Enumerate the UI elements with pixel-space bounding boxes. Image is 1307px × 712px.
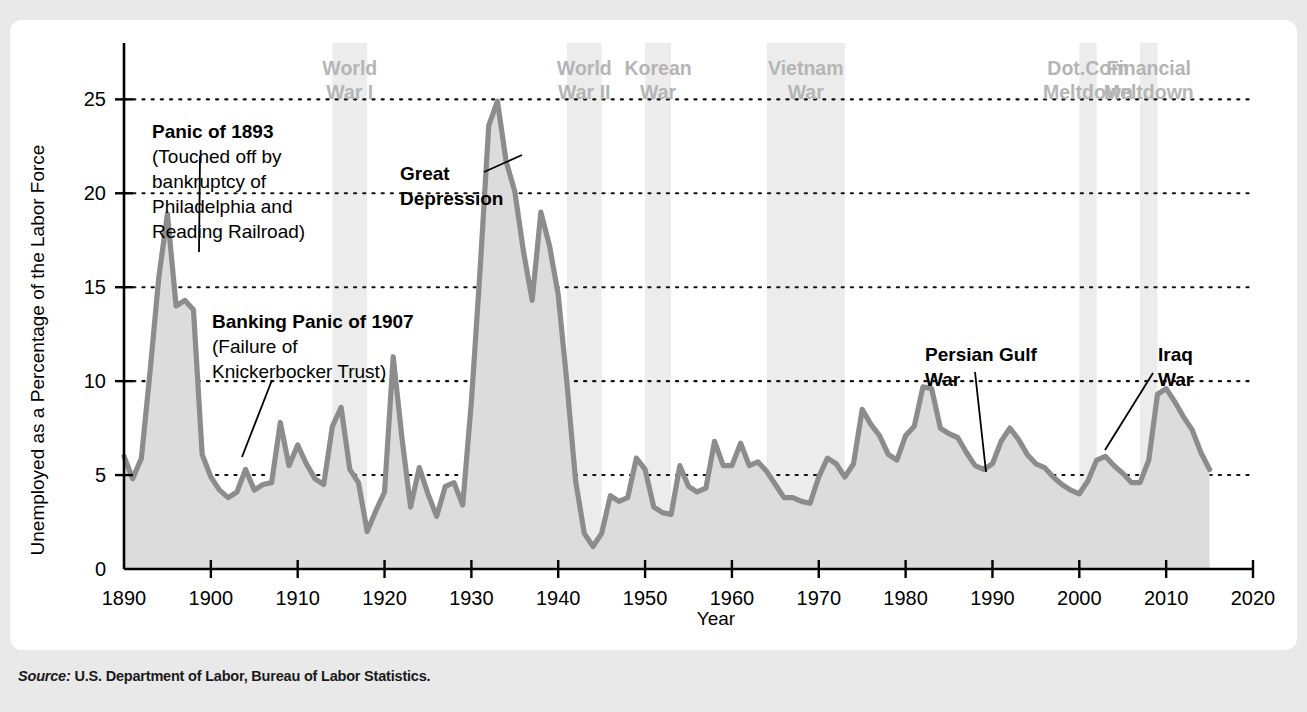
band-label-line: War (788, 81, 825, 103)
annotation-text-line: (Failure of (212, 336, 298, 357)
y-tick-label: 10 (84, 370, 106, 392)
x-tick-label: 1930 (449, 587, 494, 609)
x-tick-label: 2010 (1144, 587, 1189, 609)
x-tick-label: 2020 (1231, 587, 1276, 609)
annotation-text-line: Panic of 1893 (152, 121, 273, 142)
x-tick-label: 1960 (710, 587, 755, 609)
annotation-text-line: Banking Panic of 1907 (212, 311, 414, 332)
annotation-banking-panic-1907: Banking Panic of 1907(Failure ofKnickerb… (212, 311, 414, 457)
y-tick-label: 25 (84, 88, 106, 110)
y-tick-label: 5 (95, 464, 106, 486)
figure-background: 1890190019101920193019401950196019701980… (0, 0, 1307, 712)
annotation-text-line: Philadelphia and (152, 196, 293, 217)
annotation-text-line: Depression (400, 188, 503, 209)
x-tick-label: 1900 (189, 587, 234, 609)
annotation-text-line: bankruptcy of (152, 171, 267, 192)
band-label-line: World (557, 57, 612, 79)
annotation-text-line: Persian Gulf (925, 344, 1038, 365)
band-label-line: Vietnam (768, 57, 844, 79)
annotation-text-line: Iraq (1158, 344, 1193, 365)
x-tick-label: 2000 (1057, 587, 1102, 609)
unemployment-chart: 1890190019101920193019401950196019701980… (10, 20, 1297, 650)
annotation-text-line: Reading Railroad) (152, 221, 305, 242)
x-tick-label: 1890 (102, 587, 147, 609)
annotation-panic-1893: Panic of 1893(Touched off bybankruptcy o… (152, 121, 305, 252)
band-label-line: Meltdown (1104, 81, 1194, 103)
annotations-group: Panic of 1893(Touched off bybankruptcy o… (152, 121, 1194, 472)
annotation-text-line: War (925, 369, 961, 390)
band-label-line: War I (326, 81, 373, 103)
x-tick-label: 1980 (883, 587, 928, 609)
annotation-leader-line (975, 372, 986, 472)
band-label-line: World (322, 57, 377, 79)
y-tick-label: 20 (84, 182, 106, 204)
band-label-line: War II (558, 81, 610, 103)
source-text: U.S. Department of Labor, Bureau of Labo… (74, 668, 430, 684)
annotation-text-line: Great (400, 163, 450, 184)
x-tick-label: 1920 (362, 587, 407, 609)
x-axis-title: Year (697, 608, 736, 629)
y-tick-label: 0 (95, 558, 106, 580)
band-label-line: Financial (1107, 57, 1192, 79)
y-axis-title: Unemployed as a Percentage of the Labor … (27, 145, 48, 556)
annotation-text-line: War (1158, 369, 1194, 390)
source-label: Source: (18, 668, 71, 684)
annotation-text-line: (Touched off by (152, 146, 282, 167)
x-tick-label: 1970 (797, 587, 842, 609)
x-tick-label: 1950 (623, 587, 668, 609)
band-label-line: War (640, 81, 677, 103)
annotation-text-line: Knickerbocker Trust) (212, 361, 386, 382)
annotation-leader-line (199, 156, 200, 252)
chart-card: 1890190019101920193019401950196019701980… (10, 20, 1297, 650)
band-labels-group: WorldWar IWorldWar IIKoreanWarVietnamWar… (322, 57, 1193, 103)
band-label-line: Korean (625, 57, 692, 79)
y-tick-label: 15 (84, 276, 106, 298)
annotation-leader-line (242, 380, 272, 457)
source-note: Source: U.S. Department of Labor, Bureau… (18, 668, 430, 684)
x-tick-label: 1910 (275, 587, 320, 609)
x-tick-label: 1940 (536, 587, 581, 609)
x-tick-label: 1990 (970, 587, 1015, 609)
